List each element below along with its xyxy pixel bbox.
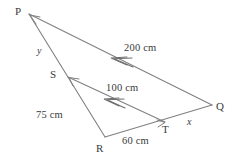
- pq-parallel-marks: [111, 57, 133, 67]
- vertex-label-t: T: [162, 124, 169, 135]
- vertex-label-s: S: [50, 69, 56, 80]
- vertex-label-p: P: [15, 6, 21, 17]
- unknown-label-x: x: [187, 117, 191, 127]
- double-chevron-arrow: [114, 58, 133, 67]
- unknown-label-y: y: [37, 46, 41, 56]
- vertex-label-r: R: [96, 143, 103, 154]
- st-parallel-marks: [104, 98, 125, 108]
- double-chevron-arrow: [107, 99, 125, 108]
- geometry-figure: P Q R S T 200 cm 100 cm 75 cm 60 cm y x: [0, 0, 236, 164]
- measurement-label-rt: 60 cm: [122, 136, 149, 147]
- p-arrowhead: [30, 15, 40, 24]
- segment-rq: [105, 105, 212, 137]
- vertex-label-q: Q: [216, 101, 224, 112]
- measurement-label-pq: 200 cm: [124, 43, 156, 54]
- measurement-label-sr: 75 cm: [36, 110, 63, 121]
- measurement-label-st: 100 cm: [106, 83, 138, 94]
